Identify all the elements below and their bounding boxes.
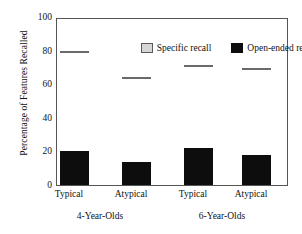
bar-segment-specific-recall xyxy=(242,68,271,70)
bar-4yo-atypical xyxy=(122,77,151,185)
bar-segment-specific-recall xyxy=(184,65,213,67)
x-tick-label-4yo-atypical: Atypical xyxy=(106,189,156,199)
x-tick-label-6yo-atypical: Atypical xyxy=(226,189,276,199)
legend-entry-open-ended-recall: Open-ended recall xyxy=(231,43,302,53)
bar-6yo-typical xyxy=(184,65,213,185)
x-tick-label-6yo-typical: Typical xyxy=(168,189,218,199)
y-tick-label-40: 40 xyxy=(12,114,52,124)
legend-swatch-open-ended-recall-icon xyxy=(231,43,243,53)
group-label-4-year-olds: 4-Year-Olds xyxy=(50,211,150,221)
bar-4yo-typical xyxy=(60,51,89,185)
group-label-6-year-olds: 6-Year-Olds xyxy=(172,211,272,221)
y-tick-label-100: 100 xyxy=(12,13,52,23)
x-tick-label-4yo-typical: Typical xyxy=(44,189,94,199)
stacked-bar-chart: Percentage of Features Recalled 100 80 6… xyxy=(0,0,302,234)
y-tick-label-60: 60 xyxy=(12,80,52,90)
legend: Specific recall Open-ended recall xyxy=(113,43,302,53)
legend-label-open-ended-recall: Open-ended recall xyxy=(247,43,302,53)
plot-area: Specific recall Open-ended recall xyxy=(56,18,288,186)
legend-label-specific-recall: Specific recall xyxy=(157,43,212,53)
bar-segment-specific-recall xyxy=(60,51,89,53)
bar-segment-open-ended-recall xyxy=(242,155,271,185)
bar-6yo-atypical xyxy=(242,68,271,185)
y-tick-label-20: 20 xyxy=(12,147,52,157)
bar-segment-open-ended-recall xyxy=(60,151,89,185)
y-tick-label-80: 80 xyxy=(12,47,52,57)
bar-segment-open-ended-recall xyxy=(122,162,151,186)
bar-segment-specific-recall xyxy=(122,77,151,79)
bar-segment-open-ended-recall xyxy=(184,148,213,185)
legend-swatch-specific-recall-icon xyxy=(141,43,153,53)
legend-entry-specific-recall: Specific recall xyxy=(141,43,212,53)
